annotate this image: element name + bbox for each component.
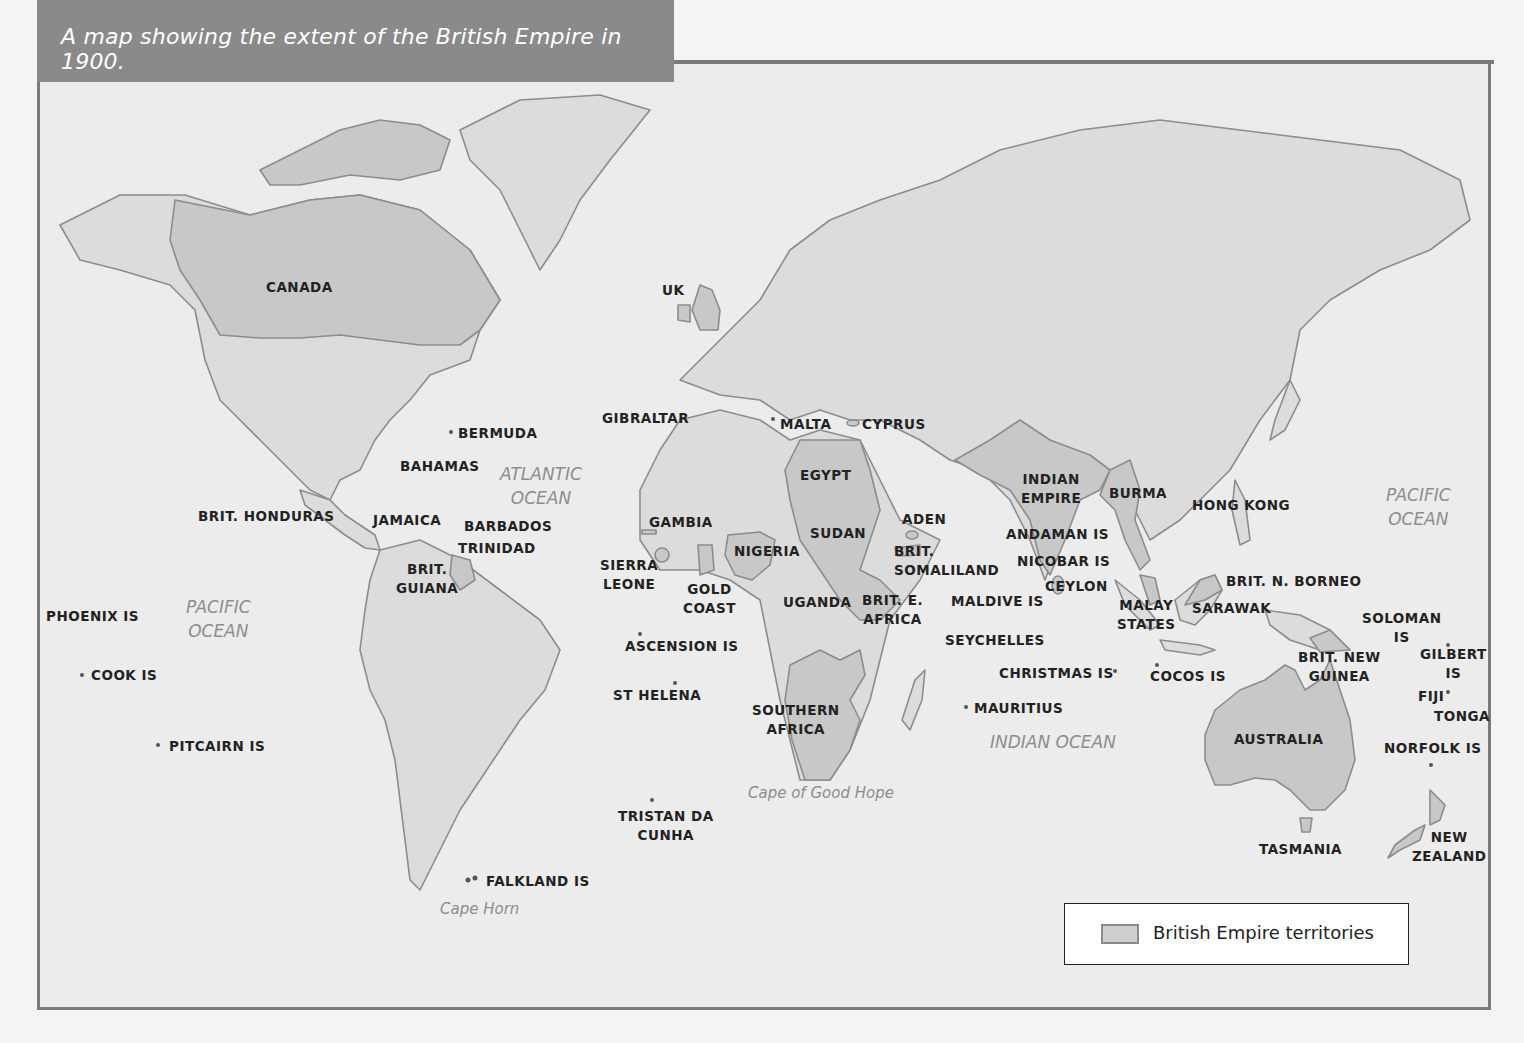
territory-label-cook: COOK IS xyxy=(91,666,157,685)
territory-label-maldive: MALDIVE IS xyxy=(951,592,1044,611)
territory-label-brit-e-africa: BRIT. E. AFRICA xyxy=(862,591,923,629)
territory-label-malta: MALTA xyxy=(780,415,831,434)
territory-label-fiji: FIJI xyxy=(1418,687,1444,706)
territory-label-gambia: GAMBIA xyxy=(649,513,713,532)
territory-label-egypt: EGYPT xyxy=(800,466,851,485)
territory-label-trinidad: TRINIDAD xyxy=(458,539,536,558)
territory-label-brit-honduras: BRIT. HONDURAS xyxy=(198,507,335,526)
territory-label-brit-n-borneo: BRIT. N. BORNEO xyxy=(1226,572,1361,591)
territory-label-aden: ADEN xyxy=(902,510,946,529)
ocean-label-atlantic: ATLANTIC OCEAN xyxy=(500,462,582,510)
title-banner: A map showing the extent of the British … xyxy=(37,0,674,82)
territory-label-gibraltar: GIBRALTAR xyxy=(602,409,689,428)
territory-label-brit-guiana: BRIT. GUIANA xyxy=(396,560,458,598)
ocean-label-pacific-east: PACIFIC OCEAN xyxy=(1386,483,1451,531)
territory-label-nicobar: NICOBAR IS xyxy=(1017,552,1110,571)
territory-label-tristan: TRISTAN DA CUNHA xyxy=(618,807,714,845)
territory-label-christmas: CHRISTMAS IS xyxy=(999,664,1114,683)
territory-label-hong-kong: HONG KONG xyxy=(1192,496,1290,515)
territory-label-mauritius: MAURITIUS xyxy=(974,699,1063,718)
territory-label-burma: BURMA xyxy=(1109,484,1167,503)
territory-label-ascension: ASCENSION IS xyxy=(625,637,739,656)
territory-label-pitcairn: PITCAIRN IS xyxy=(169,737,265,756)
territory-arctic-islands-shape xyxy=(260,120,450,185)
territory-label-bahamas: BAHAMAS xyxy=(400,457,480,476)
territory-label-sierra-leone: SIERRA LEONE xyxy=(600,556,658,594)
territory-uk-shape xyxy=(692,285,720,330)
territory-label-tasmania: TASMANIA xyxy=(1259,840,1342,859)
territory-label-seychelles: SEYCHELLES xyxy=(945,631,1045,650)
territory-label-cyprus: CYPRUS xyxy=(862,415,926,434)
land-madagascar xyxy=(902,670,925,730)
territory-label-sudan: SUDAN xyxy=(810,524,866,543)
territory-label-tonga: TONGA xyxy=(1434,707,1490,726)
territory-canada-shape xyxy=(170,195,500,345)
territory-label-andaman: ANDAMAN IS xyxy=(1006,525,1109,544)
land-java xyxy=(1160,640,1215,655)
territory-label-soloman: SOLOMAN IS xyxy=(1362,609,1441,647)
territory-label-uk: UK xyxy=(662,281,684,300)
legend-swatch-empire xyxy=(1101,924,1139,944)
territory-label-new-zealand: NEW ZEALAND xyxy=(1412,828,1487,866)
territory-label-jamaica: JAMAICA xyxy=(373,511,441,530)
territory-label-bermuda: BERMUDA xyxy=(458,424,537,443)
territory-label-uganda: UGANDA xyxy=(783,593,851,612)
territory-label-australia: AUSTRALIA xyxy=(1234,730,1323,749)
territory-label-norfolk: NORFOLK IS xyxy=(1384,739,1481,758)
map-title: A map showing the extent of the British … xyxy=(61,24,674,74)
territory-label-gilbert: GILBERT IS xyxy=(1420,645,1487,683)
territory-label-southern-africa: SOUTHERN AFRICA xyxy=(752,701,840,739)
territory-label-brit-somaliland: BRIT. SOMALILAND xyxy=(894,542,999,580)
legend-label: British Empire territories xyxy=(1153,922,1374,943)
territory-label-gold-coast: GOLD COAST xyxy=(683,580,736,618)
land-greenland xyxy=(460,95,650,270)
cape-label-good-hope: Cape of Good Hope xyxy=(748,784,894,802)
territory-label-st-helena: ST HELENA xyxy=(613,686,701,705)
ocean-label-pacific-west: PACIFIC OCEAN xyxy=(186,595,251,643)
territory-tasmania-shape xyxy=(1300,818,1312,832)
territory-label-phoenix: PHOENIX IS xyxy=(46,607,139,626)
territory-label-ceylon: CEYLON xyxy=(1045,577,1108,596)
territory-gold-coast-shape xyxy=(698,545,714,575)
territory-cyprus-shape xyxy=(847,420,859,426)
ocean-label-indian: INDIAN OCEAN xyxy=(990,730,1116,754)
map-legend: British Empire territories xyxy=(1064,903,1409,965)
territory-label-indian-empire: INDIAN EMPIRE xyxy=(1021,470,1081,508)
territory-label-sarawak: SARAWAK xyxy=(1192,599,1271,618)
territory-label-falkland: FALKLAND IS xyxy=(486,872,590,891)
territory-label-cocos: COCOS IS xyxy=(1150,667,1226,686)
territory-aden-shape xyxy=(906,531,918,539)
territory-ireland-shape xyxy=(678,305,690,322)
territory-label-brit-new-guinea: BRIT. NEW GUINEA xyxy=(1298,648,1381,686)
territory-label-barbados: BARBADOS xyxy=(464,517,552,536)
land-south-america xyxy=(360,540,560,890)
cape-label-horn: Cape Horn xyxy=(440,900,519,918)
territory-label-nigeria: NIGERIA xyxy=(734,542,800,561)
territory-label-canada: CANADA xyxy=(266,278,333,297)
territory-label-malay: MALAY STATES xyxy=(1117,596,1175,634)
